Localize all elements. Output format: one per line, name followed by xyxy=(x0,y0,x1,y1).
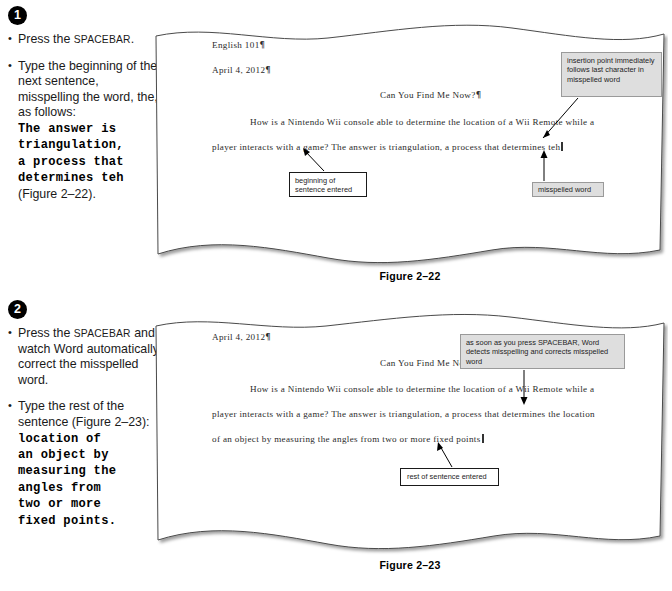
step-2-bullet-1: Press the SPACEBAR and watch Word automa… xyxy=(8,326,160,388)
step-1-block: 1 Press the SPACEBAR. Type the beginning… xyxy=(8,6,160,213)
callout-spacebar-autocorrect: as soon as you press SPACEBAR, Word dete… xyxy=(460,334,625,369)
step-1-bullet-1-text-b: . xyxy=(131,32,134,46)
step-1-bullet-1-text-a: Press the xyxy=(18,32,74,46)
step-2-bullet-2-intro: Type the rest of the sentence (Figure 2–… xyxy=(18,399,150,429)
step-2-typed-text: location of an object by measuring the a… xyxy=(18,431,160,529)
doc2-line-date: April 4, 2012¶ xyxy=(212,332,271,342)
doc2-line-body-3: of an object by measuring the angles fro… xyxy=(212,434,484,444)
doc-line-english-101: English 101¶ xyxy=(212,40,265,50)
doc2-line-body-1: How is a Nintendo Wii console able to de… xyxy=(250,384,595,394)
insertion-point-caret-2 xyxy=(482,434,484,443)
callout-beginning-of-sentence: beginning of sentence entered xyxy=(289,172,367,197)
step-2-spacebar-key: SPACEBAR xyxy=(74,328,131,339)
callout-insertion-point: insertion point immediately follows last… xyxy=(561,52,662,97)
figure-2-23: April 4, 2012¶ Can You Find Me Now?¶ How… xyxy=(152,312,668,562)
doc-line-body-2: player interacts with a game? The answer… xyxy=(212,142,563,152)
doc-line-date: April 4, 2012¶ xyxy=(212,65,271,75)
step-1-spacebar-key: SPACEBAR xyxy=(74,34,131,45)
figure-2-23-caption: Figure 2–23 xyxy=(152,559,668,571)
step-1-number-badge: 1 xyxy=(8,6,27,25)
step-2-block: 2 Press the SPACEBAR and watch Word auto… xyxy=(8,300,160,540)
insertion-point-caret xyxy=(561,142,563,151)
callout-misspelled-word: misspelled word xyxy=(532,182,604,197)
instruction-steps-column: 1 Press the SPACEBAR. Type the beginning… xyxy=(0,0,160,591)
step-2-bullet-1-text-a: Press the xyxy=(18,326,74,340)
figure-2-22-caption: Figure 2–22 xyxy=(152,270,668,282)
step-1-bullet-2-intro: Type the beginning of the next sentence,… xyxy=(18,59,158,120)
doc-line-body-1: How is a Nintendo Wii console able to de… xyxy=(250,117,595,127)
step-1-bullet-2: Type the beginning of the next sentence,… xyxy=(8,59,160,203)
figure-2-22: English 101¶ April 4, 2012¶ Can You Find… xyxy=(152,22,668,277)
step-2-bullet-2: Type the rest of the sentence (Figure 2–… xyxy=(8,399,160,529)
callout-rest-of-sentence: rest of sentence entered xyxy=(400,468,499,486)
doc2-line-body-2: player interacts with a game? The answer… xyxy=(212,409,595,419)
step-1-typed-text: The answer is triangulation, a process t… xyxy=(18,121,160,187)
doc-line-title: Can You Find Me Now?¶ xyxy=(380,90,482,100)
step-2-number-badge: 2 xyxy=(8,300,27,319)
step-1-figure-ref: (Figure 2–22). xyxy=(18,187,96,201)
step-1-bullet-1: Press the SPACEBAR. xyxy=(8,32,160,48)
